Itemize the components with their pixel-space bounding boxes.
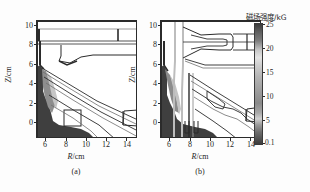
panel-b-ytick-mark-4: [158, 83, 161, 84]
panel-a-xtick-mark-6: [45, 138, 46, 141]
panel-a-ytick-mark-2: [34, 103, 37, 104]
panel-b-caption: (b): [176, 167, 224, 176]
colorbar-tick-15: 15: [266, 68, 274, 77]
panel-b-ytick-6: 6: [138, 60, 157, 69]
colorbar-gradient-canvas: [255, 24, 262, 144]
panel-a-ytick-4: 4: [14, 79, 33, 88]
panel-b-y-axis-unit: /cm: [128, 66, 137, 78]
colorbar-tick-0.1: 0.1: [265, 138, 274, 147]
colorbar-gradient[interactable]: [254, 23, 263, 145]
panel-a-xtick-mark-12: [106, 138, 107, 141]
panel-b-xtick-10: 10: [203, 140, 217, 149]
panel-a-ytick-10: 10: [14, 21, 33, 30]
panel-a-y-axis-label: Z/cm: [4, 58, 13, 92]
panel-b-ytick-mark-10: [158, 25, 161, 26]
colorbar-tick-mark-20: [263, 48, 265, 49]
panel-a-xtick-mark-8: [66, 138, 67, 141]
colorbar-tick-mark-0.1: [263, 143, 265, 144]
panel-a-xtick-12: 12: [99, 140, 113, 149]
panel-b-ytick-10: 10: [138, 21, 157, 30]
panel-a-ytick-mark-6: [34, 64, 37, 65]
panel-a-x-axis-label: R/cm: [52, 152, 100, 161]
panel-a-x-axis-unit: /cm: [72, 152, 84, 161]
panel-a-contour-canvas: [37, 21, 137, 138]
panel-b-ytick-mark-0: [158, 122, 161, 123]
panel-a-ytick-mark-8: [34, 44, 37, 45]
panel-b-vertical-channel-1: [174, 21, 175, 138]
colorbar-tick-mark-10: [263, 96, 265, 97]
panel-b-xtick-mark-10: [210, 138, 211, 141]
panel-b-xtick-mark-12: [230, 138, 231, 141]
panel-a-y-axis-var: Z: [4, 78, 13, 82]
colorbar-tick-10: 10: [266, 92, 274, 101]
panel-a-xtick-8: 8: [60, 140, 72, 149]
panel-a-xtick-mark-10: [86, 138, 87, 141]
panel-b-xtick-6: 6: [163, 140, 175, 149]
colorbar: 磁场强度/kG: [246, 0, 310, 192]
figure-root: Z/cm 10 8 6 4 2 0 6 8 10 12 14 R/cm (a): [0, 0, 310, 192]
panel-b-y-axis-label: Z/cm: [128, 58, 137, 92]
panel-a-ytick-mark-4: [34, 83, 37, 84]
panel-a-ytick-mark-0: [34, 122, 37, 123]
panel-b-ytick-mark-8: [158, 44, 161, 45]
panel-a-ytick-2: 2: [14, 99, 33, 108]
panel-b-y-axis-var: Z: [128, 78, 137, 82]
panel-a-caption: (a): [52, 167, 100, 176]
panel-b-ytick-mark-6: [158, 64, 161, 65]
panel-b-ytick-mark-2: [158, 103, 161, 104]
colorbar-tick-mark-25: [263, 24, 265, 25]
panel-b-x-axis-label: R/cm: [176, 152, 224, 161]
panel-b-xtick-mark-8: [190, 138, 191, 141]
panel-b-ytick-0: 0: [138, 118, 157, 127]
panel-b-xtick-mark-6: [169, 138, 170, 141]
panel-a-ytick-0: 0: [14, 118, 33, 127]
colorbar-tick-mark-5: [263, 120, 265, 121]
panel-b-x-axis-unit: /cm: [196, 152, 208, 161]
panel-a-y-axis-unit: /cm: [4, 66, 13, 78]
panel-b-xtick-12: 12: [223, 140, 237, 149]
colorbar-tick-5: 5: [266, 116, 270, 125]
colorbar-tick-20: 20: [266, 44, 274, 53]
colorbar-tick-25: 25: [266, 20, 274, 29]
panel-b-vertical-channel-2: [182, 21, 183, 138]
panel-a-ytick-8: 8: [14, 40, 33, 49]
panel-a-ytick-6: 6: [14, 60, 33, 69]
panel-b-xtick-8: 8: [184, 140, 196, 149]
colorbar-tick-mark-15: [263, 72, 265, 73]
panel-a-plot-area[interactable]: [36, 20, 137, 138]
panel-b-ytick-4: 4: [138, 79, 157, 88]
panel-b-ytick-2: 2: [138, 99, 157, 108]
panel-b-ytick-8: 8: [138, 40, 157, 49]
panel-a-xtick-10: 10: [79, 140, 93, 149]
panel-a-ytick-mark-10: [34, 25, 37, 26]
panel-a-xtick-6: 6: [39, 140, 51, 149]
